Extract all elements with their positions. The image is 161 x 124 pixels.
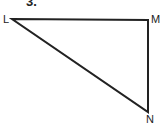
vertex-label-l: L — [3, 14, 9, 25]
vertex-label-n: N — [146, 114, 154, 124]
triangle-shape — [12, 19, 148, 112]
triangle-lmn — [0, 0, 161, 124]
vertex-label-m: M — [151, 14, 160, 25]
